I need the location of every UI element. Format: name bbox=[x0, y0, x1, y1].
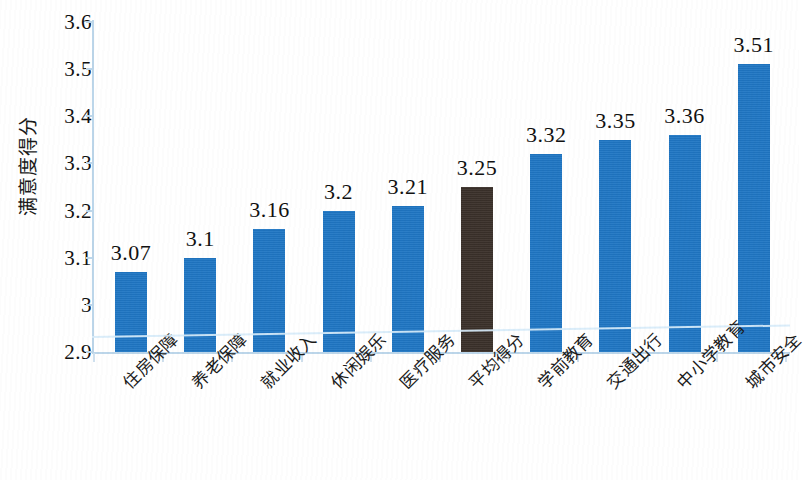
bar-value-label: 3.35 bbox=[575, 110, 655, 132]
bar bbox=[392, 206, 424, 352]
bar-value-label: 3.1 bbox=[160, 228, 240, 250]
y-tick-mark bbox=[86, 115, 94, 117]
bar bbox=[323, 211, 355, 352]
y-tick-label: 3.2 bbox=[30, 200, 92, 221]
y-tick-mark bbox=[86, 210, 94, 212]
bar-value-label: 3.16 bbox=[229, 199, 309, 221]
bar bbox=[599, 140, 631, 352]
y-tick-label: 3.1 bbox=[30, 247, 92, 268]
y-tick-mark bbox=[86, 21, 94, 23]
bar-value-label: 3.21 bbox=[368, 176, 448, 198]
bar bbox=[115, 272, 147, 352]
bar bbox=[253, 229, 285, 352]
y-tick-mark bbox=[86, 304, 94, 306]
y-tick-label: 2.9 bbox=[30, 342, 92, 363]
y-tick-label: 3.3 bbox=[30, 153, 92, 174]
y-tick-label: 3.5 bbox=[30, 59, 92, 80]
bar bbox=[738, 64, 770, 352]
bar-value-label: 3.32 bbox=[506, 124, 586, 146]
y-tick-mark bbox=[86, 162, 94, 164]
bar bbox=[669, 135, 701, 352]
y-tick-mark bbox=[86, 68, 94, 70]
y-tick-label: 3.6 bbox=[30, 12, 92, 33]
x-tick-mark bbox=[93, 353, 95, 362]
y-tick-label: 3 bbox=[30, 294, 92, 315]
bar bbox=[461, 187, 493, 352]
bar-value-label: 3.25 bbox=[437, 157, 517, 179]
bar-value-label: 3.51 bbox=[714, 34, 794, 56]
y-tick-label: 3.4 bbox=[30, 106, 92, 127]
bar-value-label: 3.36 bbox=[645, 105, 725, 127]
bar bbox=[530, 154, 562, 352]
bar-value-label: 3.2 bbox=[299, 181, 379, 203]
bar-value-label: 3.07 bbox=[91, 242, 171, 264]
bar bbox=[184, 258, 216, 352]
